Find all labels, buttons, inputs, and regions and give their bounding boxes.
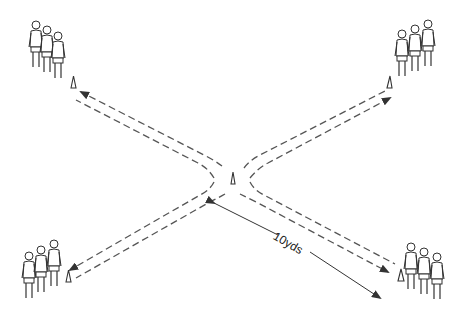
player-icon xyxy=(421,20,435,66)
player-group-bottom-left xyxy=(22,240,61,298)
lane-bottom-left xyxy=(70,182,225,278)
lane-top-right xyxy=(244,91,390,178)
player-icon xyxy=(34,246,48,292)
cone-top-left-icon xyxy=(71,76,76,88)
player-group-bottom-right xyxy=(404,243,444,299)
cone-bottom-left-icon xyxy=(66,270,71,282)
player-icon xyxy=(417,248,431,294)
player-icon xyxy=(395,30,409,76)
player-icon xyxy=(408,25,422,71)
player-group-top-left xyxy=(29,21,65,78)
player-icon xyxy=(22,252,36,298)
player-icon xyxy=(51,32,65,78)
drill-diagram xyxy=(0,0,466,325)
player-icon xyxy=(47,240,61,286)
lane-top-left xyxy=(76,92,222,178)
lane-bottom-right xyxy=(240,182,395,272)
cone-center-icon xyxy=(231,172,235,184)
cone-top-right-icon xyxy=(387,76,392,88)
player-group-top-right xyxy=(395,20,435,76)
player-icon xyxy=(404,243,418,289)
cone-bottom-right-icon xyxy=(398,269,404,281)
player-icon xyxy=(430,253,444,299)
